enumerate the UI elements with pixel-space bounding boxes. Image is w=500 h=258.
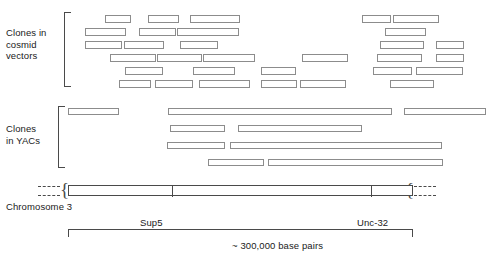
cosmid-clone-r2-c3 bbox=[177, 28, 239, 36]
cosmid-clone-r3-c2 bbox=[124, 41, 164, 49]
marker-label-unc32: Unc-32 bbox=[357, 217, 388, 228]
chromosome-label: Chromosome 3 bbox=[6, 201, 72, 212]
cosmid-group-bracket bbox=[64, 12, 71, 87]
cosmid-clone-r5-c5 bbox=[416, 67, 463, 75]
cosmid-clone-r1-c3 bbox=[190, 15, 240, 23]
axis-tick-unc32 bbox=[371, 186, 372, 197]
cosmid-clone-r4-c5 bbox=[377, 54, 422, 62]
cosmid-clone-r1-c4 bbox=[362, 15, 391, 23]
cosmid-clone-r6-c3 bbox=[199, 80, 250, 88]
cosmid-clone-r2-c1 bbox=[85, 28, 126, 36]
yac-clone-r2-c1 bbox=[170, 125, 225, 132]
chromosome-continuation-dash-left-top bbox=[38, 186, 60, 187]
marker-label-sup5: Sup5 bbox=[140, 217, 163, 228]
cosmid-clone-r6-c4 bbox=[261, 80, 297, 88]
cosmid-clone-r1-c5 bbox=[393, 15, 439, 23]
cosmid-clone-r3-c5 bbox=[436, 41, 464, 49]
cosmid-clone-r4-c1 bbox=[110, 54, 156, 62]
yac-clone-r2-c2 bbox=[238, 125, 362, 132]
cosmid-clone-r3-c1 bbox=[85, 41, 122, 49]
cosmid-clone-r1-c1 bbox=[105, 15, 131, 23]
cosmid-clone-r6-c6 bbox=[390, 80, 434, 88]
cosmid-clone-r4-c4 bbox=[302, 54, 348, 62]
cosmid-clone-r5-c2 bbox=[193, 67, 235, 75]
yac-clone-r3-c2 bbox=[230, 142, 442, 149]
cosmid-clone-r4-c6 bbox=[436, 54, 464, 62]
yac-group-label: Clones in YACs bbox=[6, 123, 40, 146]
yac-clone-r1-c2 bbox=[168, 108, 392, 115]
yac-clone-r1-c1 bbox=[68, 108, 119, 115]
cosmid-clone-r1-c2 bbox=[148, 15, 179, 23]
cosmid-clone-r5-c3 bbox=[261, 67, 296, 75]
cosmid-group-label: Clones in cosmid vectors bbox=[6, 27, 47, 62]
cosmid-clone-r6-c2 bbox=[155, 80, 193, 88]
yac-clone-r4-c2 bbox=[268, 159, 443, 166]
scale-bar bbox=[68, 229, 413, 237]
cosmid-clone-r6-c5 bbox=[300, 80, 346, 88]
cosmid-clone-r4-c2 bbox=[157, 54, 202, 62]
yac-clone-r3-c1 bbox=[167, 142, 225, 149]
cosmid-clone-r3-c4 bbox=[380, 41, 424, 49]
yac-clone-r1-c3 bbox=[404, 108, 486, 115]
axis-tick-sup5 bbox=[172, 186, 173, 197]
figure-canvas: Clones in cosmid vectors Clones in YACs … bbox=[0, 0, 500, 258]
chromosome-axis-bar bbox=[68, 185, 413, 196]
chromosome-continuation-dash-right-top bbox=[414, 186, 436, 187]
cosmid-clone-r2-c2 bbox=[139, 28, 176, 36]
chromosome-continuation-dash-right-bottom bbox=[414, 195, 436, 196]
cosmid-clone-r2-c4 bbox=[385, 28, 426, 36]
cosmid-clone-r5-c4 bbox=[373, 67, 412, 75]
cosmid-clone-r4-c3 bbox=[203, 54, 255, 62]
cosmid-clone-r3-c3 bbox=[180, 41, 218, 49]
cosmid-clone-r6-c1 bbox=[119, 80, 151, 88]
yac-group-bracket bbox=[58, 106, 65, 168]
chromosome-continuation-dash-left-bottom bbox=[38, 195, 60, 196]
yac-clone-r4-c1 bbox=[208, 159, 264, 166]
scale-bar-label: ~ 300,000 base pairs bbox=[232, 240, 323, 251]
cosmid-clone-r5-c1 bbox=[125, 67, 163, 75]
